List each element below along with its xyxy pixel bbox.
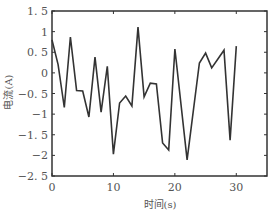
x-axis-label: 时间(s) (144, 198, 177, 210)
y-tick-label: −2 (32, 149, 48, 162)
x-tick-labels: 0102030 (49, 181, 244, 194)
y-axis-label: 电流(A) (2, 74, 14, 109)
current-series-line (52, 27, 236, 160)
y-tick-label: −1 (32, 108, 48, 121)
y-tick-label: −0. 5 (18, 88, 48, 101)
x-tick-label: 10 (106, 181, 120, 194)
y-tick-label: 0. 5 (27, 46, 48, 59)
plot-frame (52, 11, 267, 176)
y-tick-labels: 1. 510. 50−0. 5−1−1. 5−2−2. 5 (18, 5, 48, 183)
y-tick-label: 1. 5 (27, 5, 48, 18)
x-tick-label: 30 (229, 181, 243, 194)
axis-ticks (52, 11, 267, 176)
y-tick-label: −2. 5 (18, 170, 48, 183)
y-tick-label: 0 (41, 67, 48, 80)
y-tick-label: −1. 5 (18, 129, 48, 142)
x-tick-label: 20 (168, 181, 182, 194)
x-tick-label: 0 (49, 181, 56, 194)
line-chart: 1. 510. 50−0. 5−1−1. 5−2−2. 5 0102030 时间… (0, 0, 275, 215)
y-tick-label: 1 (41, 26, 48, 39)
